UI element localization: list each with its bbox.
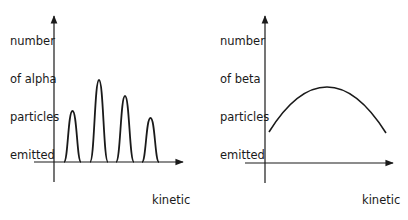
alpha-y-label-line: emitted: [10, 149, 59, 162]
alpha-y-label-line: number: [10, 35, 59, 48]
beta-x-label-line: kinetic: [362, 194, 402, 207]
beta-curve: [269, 87, 386, 133]
beta-y-label: number of beta particles emitted: [220, 10, 269, 174]
alpha-y-label: number of alpha particles emitted: [10, 10, 59, 174]
beta-y-label-line: of beta: [220, 73, 269, 86]
alpha-peak-2: [90, 80, 108, 162]
beta-x-label: kinetic energy (MeV): [362, 169, 402, 220]
beta-y-label-line: particles: [220, 111, 269, 124]
alpha-peak-3: [116, 96, 134, 162]
alpha-peak-1: [64, 111, 81, 162]
beta-y-label-line: emitted: [220, 149, 269, 162]
alpha-x-label: kinetic energy (MeV): [152, 169, 192, 220]
beta-y-label-line: number: [220, 35, 269, 48]
alpha-y-label-line: of alpha: [10, 73, 59, 86]
alpha-y-label-line: particles: [10, 111, 59, 124]
alpha-peak-4: [142, 118, 159, 162]
alpha-peaks: [64, 80, 159, 162]
alpha-x-label-line: kinetic: [152, 194, 192, 207]
spectra-diagram: [0, 0, 408, 220]
